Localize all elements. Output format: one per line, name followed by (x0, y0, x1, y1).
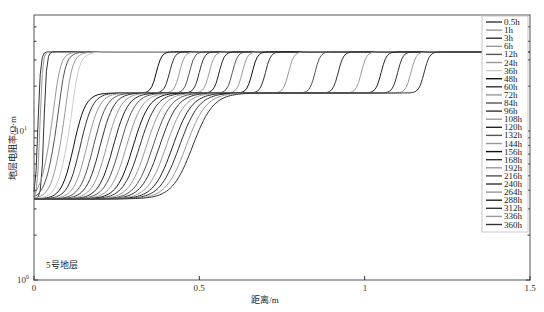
series-line-96h (34, 52, 530, 199)
series-line-72h (34, 52, 530, 199)
series-line-120h (34, 52, 530, 199)
series-line-60h (34, 52, 530, 199)
series-line-216h (34, 52, 530, 199)
resistivity-curves (34, 52, 530, 199)
plot-frame (34, 15, 530, 280)
series-line-192h (34, 52, 530, 199)
series-line-132h (34, 52, 530, 199)
series-line-156h (34, 52, 530, 199)
series-line-240h (34, 52, 530, 199)
x-tick-label-1.5: 1.5 (524, 283, 536, 293)
series-line-3h (34, 52, 530, 199)
series-line-12h (34, 52, 530, 197)
series-line-288h (34, 52, 530, 199)
series-line-312h (34, 52, 530, 199)
series-line-264h (34, 52, 530, 199)
series-line-144h (34, 52, 530, 199)
series-line-36h (34, 52, 530, 199)
series-line-108h (34, 52, 530, 199)
x-tick-label-1: 1 (363, 283, 368, 293)
series-line-84h (34, 52, 530, 199)
legend-label: 360h (504, 220, 523, 230)
y-axis-title: 地层电阻率/Ω·m (7, 116, 18, 180)
x-axis-title: 距离/m (251, 294, 279, 305)
y-axis-ticks (34, 27, 530, 280)
y-tick-label-10^0: 100 (17, 274, 29, 285)
series-line-360h (34, 52, 530, 199)
series-line-1h (34, 52, 530, 198)
x-tick-label-0: 0 (32, 283, 37, 293)
legend: 0.5h1h3h6h12h24h36h48h60h72h84h96h108h12… (482, 16, 528, 232)
series-line-0.5h (34, 52, 530, 192)
series-line-6h (34, 52, 530, 194)
series-line-24h (34, 52, 530, 198)
chart: 101 100 0 0.5 1 1.5 距离/m 地层电阻率/Ω·m 5号地层 … (0, 0, 544, 312)
x-tick-label-0.5: 0.5 (193, 283, 205, 293)
series-line-168h (34, 52, 530, 199)
series-line-48h (34, 52, 530, 199)
x-axis-ticks (34, 276, 530, 280)
layer-annotation: 5号地层 (46, 259, 78, 270)
series-line-336h (34, 52, 530, 199)
